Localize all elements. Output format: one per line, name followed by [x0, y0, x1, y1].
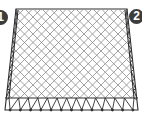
truss-diagram: [0, 0, 142, 117]
bottom-truss: [9, 98, 134, 111]
marker-2-label: 2: [133, 9, 140, 23]
marker-2-badge: 2: [129, 9, 142, 24]
marker-1-label: 1: [0, 10, 4, 24]
diagonal-lattice: [0, 0, 142, 117]
